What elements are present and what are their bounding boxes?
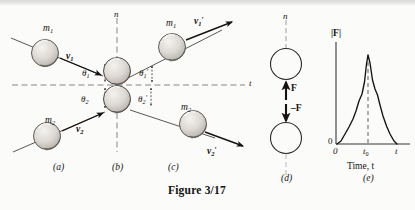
plot-origin-label-y: 0: [328, 137, 333, 146]
sphere-m2-before: [34, 123, 61, 151]
plot-x-axis-label: Time, t: [347, 162, 374, 172]
mass-label-m1-before: m1: [43, 24, 53, 34]
axis-label-t: t: [249, 79, 252, 88]
sphere-m2-after: [180, 111, 207, 139]
velocity-vector-v2-prime[interactable]: [205, 132, 243, 146]
sphere-m1-contact: [104, 58, 131, 86]
plot-y-axis-label: |F|: [331, 29, 341, 39]
sphere-m1-after: [159, 34, 186, 62]
axis-label-n: n: [114, 10, 119, 19]
plot-tick-label-t0: t0: [363, 147, 369, 157]
velocity-label-v1: v1: [66, 52, 73, 62]
mass-label-m2-after: m2: [181, 103, 191, 113]
velocity-vector-v1-prime[interactable]: [186, 22, 232, 40]
panel-d-axis-label-n: n: [283, 12, 288, 21]
force-label-F: F: [291, 84, 297, 94]
force-label-minus-F: –F: [291, 104, 302, 114]
plot-impulse-curve: [337, 55, 397, 144]
panel-letter-c: (c): [168, 163, 179, 173]
figure-caption: Figure 3/17: [168, 185, 226, 197]
angle-label-theta1-prime: θ1′: [139, 69, 148, 79]
panel-d-sphere-upper: [271, 49, 302, 80]
angle-label-theta2: θ2: [81, 95, 88, 105]
velocity-label-v2: v2: [76, 125, 83, 135]
panel-d-sphere-lower: [271, 123, 302, 154]
sphere-m1-before: [32, 40, 59, 67]
sphere-m2-contact: [104, 86, 131, 114]
panel-letter-a: (a): [53, 163, 64, 173]
velocity-label-v1-prime: v1′: [194, 17, 204, 28]
panel-letter-e: (e): [363, 174, 374, 184]
mass-label-m2-before: m2: [45, 116, 55, 126]
mass-label-m1-after: m1: [166, 19, 176, 29]
figure-3-17: n t m1 v1 m2 v2 θ1 θ2 θ1′ θ2′ m1 v1′ m2 …: [0, 0, 415, 210]
angle-label-theta2-prime: θ2′: [138, 95, 147, 105]
panel-letter-b: (b): [112, 163, 123, 173]
plot-tick-label-t: t: [395, 147, 398, 156]
angle-label-theta1: θ1: [82, 69, 89, 79]
figure-vector-layer: [0, 0, 415, 210]
panel-letter-d: (d): [281, 174, 292, 184]
plot-origin-label-x: 0: [333, 147, 338, 156]
velocity-label-v2-prime: v2′: [207, 147, 217, 158]
